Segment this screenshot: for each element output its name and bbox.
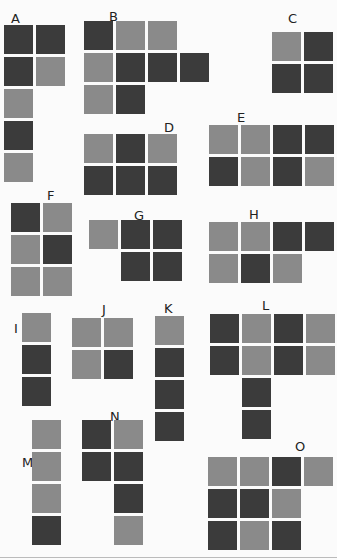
light-square xyxy=(306,314,335,343)
dark-square xyxy=(116,134,145,163)
dark-square xyxy=(155,412,184,441)
light-square xyxy=(242,314,271,343)
light-square xyxy=(240,521,269,550)
light-square xyxy=(208,457,237,486)
dark-square xyxy=(153,252,182,281)
piece-label-i: I xyxy=(14,322,18,335)
light-square xyxy=(242,346,271,375)
dark-square xyxy=(208,521,237,550)
dark-square xyxy=(82,452,111,481)
light-square xyxy=(43,203,72,232)
light-square xyxy=(240,457,269,486)
dark-square xyxy=(116,85,145,114)
light-square xyxy=(306,346,335,375)
dark-square xyxy=(305,125,334,154)
dark-square xyxy=(241,254,270,283)
dark-square xyxy=(11,203,40,232)
piece-label-l: L xyxy=(262,299,269,312)
light-square xyxy=(272,489,301,518)
piece-label-c: C xyxy=(288,12,297,25)
piece-label-k: K xyxy=(164,302,173,315)
light-square xyxy=(32,452,61,481)
dark-square xyxy=(4,57,33,86)
dark-square xyxy=(304,64,333,93)
light-square xyxy=(84,53,113,82)
light-square xyxy=(209,125,238,154)
dark-square xyxy=(242,378,271,407)
dark-square xyxy=(43,235,72,264)
dark-square xyxy=(116,53,145,82)
dark-square xyxy=(4,25,33,54)
dark-square xyxy=(274,314,303,343)
piece-label-d: D xyxy=(164,121,174,134)
dark-square xyxy=(36,25,65,54)
light-square xyxy=(22,313,51,342)
dark-square xyxy=(240,489,269,518)
light-square xyxy=(11,267,40,296)
light-square xyxy=(32,420,61,449)
dark-square xyxy=(82,420,111,449)
piece-label-f: F xyxy=(47,189,54,202)
light-square xyxy=(148,134,177,163)
dark-square xyxy=(242,410,271,439)
light-square xyxy=(148,21,177,50)
piece-label-a: A xyxy=(11,12,20,25)
light-square xyxy=(155,316,184,345)
dark-square xyxy=(4,121,33,150)
dark-square xyxy=(22,345,51,374)
piece-label-h: H xyxy=(249,208,259,221)
light-square xyxy=(114,516,143,545)
dark-square xyxy=(273,157,302,186)
dark-square xyxy=(116,166,145,195)
dark-square xyxy=(153,220,182,249)
dark-square xyxy=(272,64,301,93)
dark-square xyxy=(210,346,239,375)
dark-square xyxy=(121,220,150,249)
light-square xyxy=(4,89,33,118)
light-square xyxy=(114,420,143,449)
piece-label-j: J xyxy=(102,303,106,316)
light-square xyxy=(11,235,40,264)
dark-square xyxy=(274,346,303,375)
dark-square xyxy=(304,32,333,61)
light-square xyxy=(84,85,113,114)
light-square xyxy=(89,220,118,249)
light-square xyxy=(4,153,33,182)
piece-label-o: O xyxy=(295,440,305,453)
dark-square xyxy=(210,314,239,343)
dark-square xyxy=(272,457,301,486)
light-square xyxy=(104,318,133,347)
light-square xyxy=(272,32,301,61)
light-square xyxy=(43,267,72,296)
dark-square xyxy=(272,521,301,550)
dark-square xyxy=(273,222,302,251)
light-square xyxy=(241,222,270,251)
dark-square xyxy=(208,489,237,518)
light-square xyxy=(305,157,334,186)
light-square xyxy=(304,457,333,486)
dark-square xyxy=(84,166,113,195)
light-square xyxy=(72,318,101,347)
light-square xyxy=(36,57,65,86)
dark-square xyxy=(148,53,177,82)
light-square xyxy=(273,254,302,283)
dark-square xyxy=(84,21,113,50)
light-square xyxy=(209,222,238,251)
dark-square xyxy=(114,484,143,513)
light-square xyxy=(209,254,238,283)
dark-square xyxy=(305,222,334,251)
dark-square xyxy=(180,53,209,82)
dark-square xyxy=(148,166,177,195)
piece-label-e: E xyxy=(237,111,245,124)
light-square xyxy=(241,157,270,186)
light-square xyxy=(32,484,61,513)
dark-square xyxy=(114,452,143,481)
bottom-divider xyxy=(0,557,337,558)
light-square xyxy=(241,125,270,154)
light-square xyxy=(72,350,101,379)
dark-square xyxy=(32,516,61,545)
dark-square xyxy=(273,125,302,154)
dark-square xyxy=(155,380,184,409)
dark-square xyxy=(209,157,238,186)
dark-square xyxy=(22,377,51,406)
